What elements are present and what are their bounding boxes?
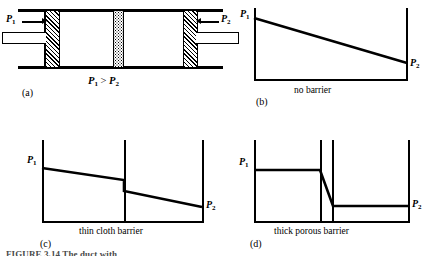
panel-b-no-barrier-plot: P1 P2 no barrier (b) <box>228 0 438 112</box>
panel-d-label: (d) <box>250 239 262 249</box>
panel-d-p1-label: P1 <box>239 157 249 169</box>
panel-d-pressure-curve <box>254 140 410 224</box>
panel-c-label: (c) <box>40 239 51 249</box>
p2-subscript: 2 <box>418 203 422 211</box>
panel-d-thick-porous-barrier-plot: P1 P2 thick porous barrier (d) <box>228 128 438 256</box>
pressure-relation-label: P1 > P2 <box>88 76 119 88</box>
panel-b-p1-label: P1 <box>240 9 250 21</box>
panel-c-thin-cloth-barrier-plot: P1 P2 thin cloth barrier (c) <box>0 128 228 256</box>
panel-b-label: (b) <box>256 97 268 107</box>
p1-subscript: 1 <box>245 161 249 169</box>
relation-p2-subscript: 2 <box>116 80 120 88</box>
panel-d-caption: thick porous barrier <box>274 227 349 237</box>
panel-a-inlet-pressure-label: P1 <box>6 14 16 26</box>
left-hatched-plug <box>45 11 60 67</box>
panel-b-caption: no barrier <box>294 86 331 96</box>
p2-subscript: 2 <box>212 204 216 212</box>
p2-subscript: 2 <box>416 62 420 70</box>
panel-c-p2-label: P2 <box>206 200 216 212</box>
panel-a-label: (a) <box>22 88 33 98</box>
panel-b-p2-label: P2 <box>410 58 420 70</box>
outlet-flow-arrow <box>201 21 219 23</box>
p1-subscript: 1 <box>246 13 250 21</box>
panel-c-caption: thin cloth barrier <box>79 227 143 237</box>
panel-c-p1-label: P1 <box>27 155 37 167</box>
center-porous-barrier <box>113 11 124 67</box>
panel-b-pressure-curve <box>254 8 408 82</box>
inlet-tube <box>2 32 46 44</box>
panel-a-apparatus-diagram: P1 P2 P1 > P2 (a) <box>0 0 230 110</box>
panel-c-pressure-curve <box>42 140 204 224</box>
p1-subscript: 1 <box>12 18 16 26</box>
inlet-flow-arrow <box>22 21 42 23</box>
panel-d-p2-label: P2 <box>412 199 422 211</box>
figure-container: P1 P2 P1 > P2 (a) P1 P2 no barrier (b) <box>0 0 438 256</box>
p1-subscript: 1 <box>33 159 37 167</box>
figure-caption: FIGURE 3.14 The duct with <box>6 249 117 256</box>
